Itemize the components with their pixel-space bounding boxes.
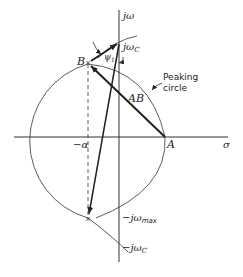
- peaking-circle-right-arc: [88, 64, 165, 218]
- s-plane-diagram: × × jω σ A B −α jωC −jωmax −jωC AB ψ1 Pe…: [0, 0, 243, 277]
- pole-B-marker: ×: [85, 59, 91, 67]
- pole-lower-marker: ×: [85, 215, 91, 223]
- peaking-label-line2: circle: [163, 83, 187, 93]
- neg-alpha-label: −α: [73, 139, 88, 150]
- point-A-label: A: [166, 138, 175, 151]
- imaginary-axis-label: jω: [121, 10, 134, 21]
- real-axis-label: σ: [223, 139, 231, 150]
- AB-label: AB: [127, 92, 144, 105]
- psi-label: ψ1: [104, 52, 115, 63]
- jwc-label: jωC: [121, 41, 140, 54]
- psi-angle-arc: [119, 57, 123, 63]
- peaking-pointer-arrow: [152, 83, 162, 90]
- neg-jwc-label: −jωC: [122, 242, 148, 255]
- curved-pointer-arrow: [93, 42, 101, 54]
- point-B-label: B: [76, 55, 85, 68]
- neg-jwmax-label: −jωmax: [122, 212, 158, 225]
- peaking-label-line1: Peaking: [163, 72, 198, 82]
